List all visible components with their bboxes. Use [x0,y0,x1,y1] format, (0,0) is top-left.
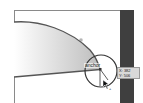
y-coordinate: Y: 506 [119,73,138,78]
anchor-label: anchor [84,63,101,68]
svg-text:+: + [109,86,112,90]
coordinates-tooltip: X: 382 Y: 506 [117,67,140,79]
crosshair-diagonal [100,69,108,80]
curve-anchor-point[interactable] [80,39,82,41]
pen-cursor-icon: + [103,80,113,90]
side-panel [120,10,134,103]
selected-anchor-point[interactable] [99,68,102,71]
gradient-shape[interactable] [14,22,100,77]
